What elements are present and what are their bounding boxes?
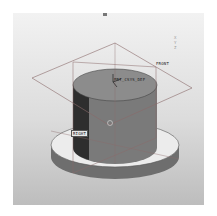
- datum-label-right[interactable]: RIGHT: [71, 130, 88, 137]
- viewport-top-marker: [103, 13, 107, 16]
- graphics-viewport[interactable]: FRONT PRT_CSYS_DEF RIGHT X Y Z: [13, 13, 204, 205]
- triad-axis-z: Z: [174, 45, 177, 50]
- csys-label[interactable]: PRT_CSYS_DEF: [114, 77, 145, 82]
- orientation-triad-icon: X Y Z: [174, 35, 177, 50]
- datum-label-front[interactable]: FRONT: [156, 61, 169, 66]
